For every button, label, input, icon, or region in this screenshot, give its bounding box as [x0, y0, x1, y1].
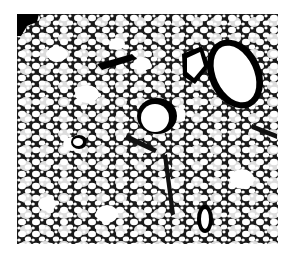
lung-tissue-illustration — [17, 14, 278, 244]
micrograph-image — [17, 14, 278, 244]
